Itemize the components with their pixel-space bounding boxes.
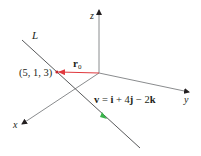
k-symbol: k <box>150 94 156 105</box>
r0-sub: 0 <box>78 63 82 71</box>
eq-sign: = <box>99 94 110 105</box>
point-label: (5, 1, 3) <box>19 67 53 79</box>
plus-term: + 4 <box>113 94 130 105</box>
direction-vector-equation: v = i + 4j − 2k <box>94 94 156 105</box>
direction-arrow-icon <box>100 112 107 119</box>
y-axis <box>99 73 189 92</box>
line-vector-diagram: z y x L (5, 1, 3) r0 v = i + 4j − 2k <box>0 0 201 156</box>
x-axis <box>22 73 99 124</box>
x-axis-label: x <box>12 119 18 130</box>
line-label: L <box>31 29 38 41</box>
z-axis-label: z <box>89 10 94 21</box>
position-vector-r0 <box>59 72 99 73</box>
y-axis-label: y <box>183 94 189 105</box>
minus-term: − 2 <box>133 94 149 105</box>
r0-label: r0 <box>73 57 82 71</box>
point-marker <box>55 70 58 73</box>
